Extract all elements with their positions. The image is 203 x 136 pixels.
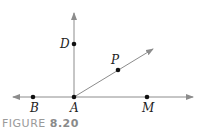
label-d: D xyxy=(59,37,70,51)
label-p: P xyxy=(110,53,120,67)
caption-prefix: FIGURE xyxy=(2,117,46,130)
point-d xyxy=(72,42,77,47)
geometry-figure: D P B A M xyxy=(0,0,203,136)
point-b xyxy=(31,95,36,100)
label-a: A xyxy=(69,101,79,115)
figure-caption: FIGURE 8.20 xyxy=(2,117,79,130)
point-m xyxy=(145,95,150,100)
point-p xyxy=(116,68,121,73)
caption-number: 8.20 xyxy=(50,117,79,130)
label-b: B xyxy=(29,101,39,115)
label-m: M xyxy=(141,101,155,115)
point-a xyxy=(72,95,77,100)
